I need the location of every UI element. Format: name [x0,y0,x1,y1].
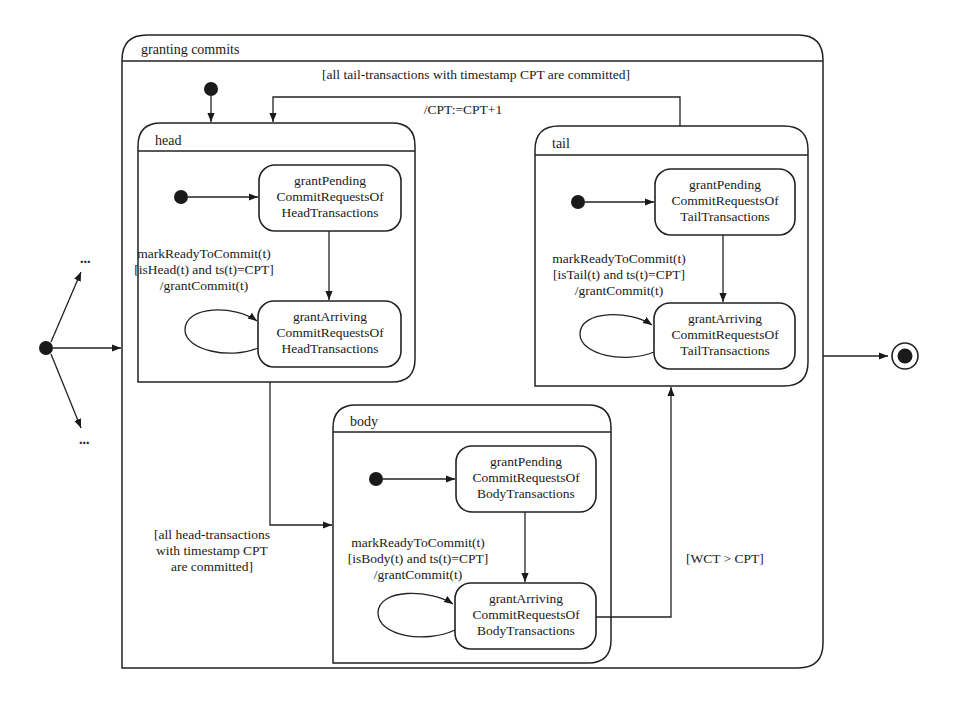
tail-initial-dot-icon [571,195,585,209]
ellipsis-bottom: ... [79,432,90,447]
state-tail-grant-pending-line1: grantPending [689,177,761,192]
state-body-grant-arriving-line1: grantArriving [489,591,563,606]
state-diagram: granting commits ... ... [all tail-trans… [0,0,954,706]
state-body-grant-pending-line1: grantPending [490,454,562,469]
tail-to-head-guard-label: [all tail-transactions with timestamp CP… [322,67,630,82]
region-body[interactable]: body grantPending CommitRequestsOf BodyT… [333,405,611,663]
state-head-grant-arriving-line2: CommitRequestsOf [276,325,384,340]
body-self-loop[interactable] [378,593,455,637]
body-loop-label-line3: /grantCommit(t) [374,567,463,582]
head-self-loop[interactable] [185,310,258,353]
tail-loop-label-line2: [isTail(t) and ts(t)=CPT] [553,267,685,282]
final-state-dot-icon [898,349,913,364]
state-tail-grant-arriving-line2: CommitRequestsOf [671,327,779,342]
head-to-body-guard-line1: [all head-transactions [154,527,270,542]
initial-dot-icon [39,341,53,355]
state-head-grant-pending-line1: grantPending [294,173,366,188]
region-tail[interactable]: tail grantPending CommitRequestsOf TailT… [535,126,808,386]
tail-self-loop[interactable] [580,315,654,358]
head-to-body-guard-line2: with timestamp CPT [156,543,269,558]
transition-initial-branch-up[interactable] [51,272,81,342]
state-body-grant-arriving-line2: CommitRequestsOf [472,607,580,622]
inner-initial-dot-icon [204,82,218,96]
transition-head-to-body[interactable] [270,382,332,525]
state-head-grant-arriving-line1: grantArriving [293,309,367,324]
state-tail-grant-pending-line3: TailTransactions [680,209,769,224]
state-tail-grant-pending-line2: CommitRequestsOf [671,193,779,208]
body-loop-label-line1: markReadyToCommit(t) [351,535,484,550]
body-loop-label-line2: [isBody(t) and ts(t)=CPT] [348,551,488,566]
head-loop-label-line1: markReadyToCommit(t) [137,246,270,261]
state-body-grant-pending-line3: BodyTransactions [477,486,575,501]
state-head-grant-arriving-line3: HeadTransactions [282,341,379,356]
state-tail-grant-arriving-line3: TailTransactions [680,343,769,358]
body-region-title: body [350,414,378,429]
final-state [823,343,918,369]
transition-initial-branch-down[interactable] [51,354,81,428]
tail-to-head-action-label: /CPT:=CPT+1 [424,102,502,117]
external-initial-node: ... ... [39,251,121,447]
body-initial-dot-icon [369,472,383,486]
state-head-grant-pending-line2: CommitRequestsOf [276,189,384,204]
ellipsis-top: ... [80,251,91,266]
tail-region-title: tail [552,136,570,151]
region-head[interactable]: head grantPending CommitRequestsOf HeadT… [134,123,415,382]
state-body-grant-arriving-line3: BodyTransactions [477,623,575,638]
outer-state-title: granting commits [141,42,239,57]
state-body-grant-pending-line2: CommitRequestsOf [472,470,580,485]
head-to-body-guard-line3: are committed] [171,559,253,574]
head-initial-dot-icon [174,190,188,204]
tail-loop-label-line3: /grantCommit(t) [575,283,664,298]
head-loop-label-line2: [isHead(t) and ts(t)=CPT] [134,262,274,277]
state-head-grant-pending-line3: HeadTransactions [282,205,379,220]
body-to-tail-guard-label: [WCT > CPT] [686,551,764,566]
transition-body-to-tail[interactable] [596,387,671,617]
head-region-title: head [155,133,181,148]
head-loop-label-line3: /grantCommit(t) [160,278,249,293]
tail-loop-label-line1: markReadyToCommit(t) [552,251,685,266]
state-tail-grant-arriving-line1: grantArriving [688,311,762,326]
